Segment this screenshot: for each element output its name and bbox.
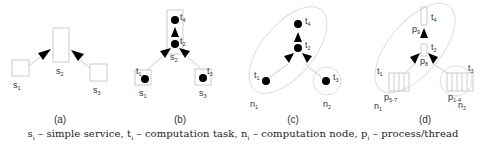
svg-text:s1: s1 <box>13 80 21 91</box>
edge-s1-s2 <box>29 57 40 66</box>
arrow-head-icon <box>420 28 428 38</box>
panel-label-b: (b) <box>174 114 186 125</box>
panel-label-c: (c) <box>287 114 299 125</box>
svg-text:t3: t3 <box>207 66 213 77</box>
service-box-s2 <box>53 28 69 62</box>
task-t2 <box>294 44 302 52</box>
service-box-s1 <box>12 60 29 76</box>
panel-b: t4 t2 s2 t1 t3 s1 s3 <box>135 10 213 99</box>
task-t2 <box>171 40 179 48</box>
arrow-head-icon <box>302 53 312 63</box>
svg-text:s2: s2 <box>56 66 64 77</box>
panel-label-a: (a) <box>54 114 66 125</box>
svg-text:p8: p8 <box>420 56 428 67</box>
svg-text:n1: n1 <box>250 99 258 110</box>
svg-text:s3: s3 <box>199 88 207 99</box>
task-t4 <box>171 16 179 24</box>
svg-text:n1: n1 <box>374 101 382 112</box>
process-group-p1-4 <box>447 73 473 91</box>
process-box-p8 <box>421 44 427 56</box>
task-t3 <box>199 74 207 82</box>
svg-text:p5-7: p5-7 <box>384 92 397 103</box>
svg-text:t4: t4 <box>431 12 437 23</box>
panel-d: t4 p9 t2 p8 t1 t3 p5-7 p1-4 n1 n2 <box>360 0 473 112</box>
task-t3 <box>322 77 330 85</box>
node-n1-ellipse <box>360 0 469 106</box>
arrow-head-icon <box>71 50 84 61</box>
task-t1 <box>141 75 149 83</box>
svg-text:t2: t2 <box>431 42 437 53</box>
diagram-canvas: s1 s2 s3 t4 t2 s2 t1 t3 s1 s3 <box>0 0 486 144</box>
arrow-head-icon <box>171 27 179 37</box>
svg-text:n2: n2 <box>323 99 331 110</box>
svg-text:t1: t1 <box>377 66 383 77</box>
panel-a: s1 s2 s3 <box>12 28 107 96</box>
svg-text:p9: p9 <box>412 24 420 35</box>
svg-text:s3: s3 <box>93 85 101 96</box>
panel-c: t4 t2 t1 t3 n1 n2 <box>235 0 342 110</box>
arrow-head-icon <box>294 32 302 42</box>
arrow-head-icon <box>179 48 190 58</box>
arrow-head-icon <box>410 53 420 64</box>
svg-text:t1: t1 <box>254 70 260 81</box>
svg-text:s1: s1 <box>139 88 147 99</box>
svg-text:n2: n2 <box>458 100 466 111</box>
panel-label-d: (d) <box>419 114 431 125</box>
svg-text:t2: t2 <box>305 40 311 51</box>
service-box-s3 <box>90 64 107 81</box>
svg-text:t1: t1 <box>136 66 142 77</box>
arrow-head-icon <box>284 53 294 63</box>
svg-text:t3: t3 <box>468 63 474 74</box>
node-n1-ellipse <box>235 0 342 107</box>
svg-text:t4: t4 <box>305 16 311 27</box>
figure-caption: si – simple service, ti – computation ta… <box>0 128 486 141</box>
arrow-head-icon <box>38 49 51 60</box>
task-t1 <box>262 77 270 85</box>
svg-text:t3: t3 <box>333 72 339 83</box>
task-t4 <box>294 20 302 28</box>
process-box-p9 <box>421 7 427 25</box>
edge-s3-s2 <box>80 60 90 68</box>
